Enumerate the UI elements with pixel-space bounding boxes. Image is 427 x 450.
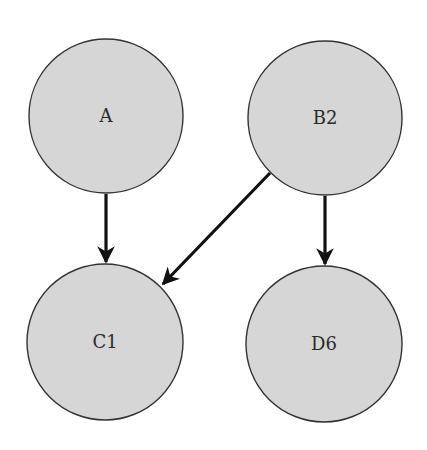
node-a-label: A: [99, 105, 114, 126]
graph-diagram: A B2 C1 D6: [0, 0, 427, 450]
node-b2: B2: [248, 41, 402, 195]
edges: [106, 173, 325, 284]
node-d6: D6: [246, 266, 402, 422]
node-d6-label: D6: [311, 333, 337, 354]
node-b2-label: B2: [313, 107, 338, 128]
node-c1-label: C1: [92, 331, 117, 352]
node-c1: C1: [27, 264, 183, 420]
edge-b2-to-c1: [163, 173, 270, 284]
node-a: A: [29, 39, 183, 193]
